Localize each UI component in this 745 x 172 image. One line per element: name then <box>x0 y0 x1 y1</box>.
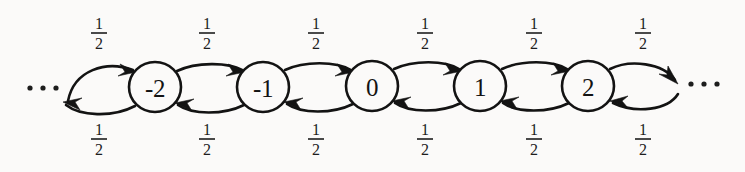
top-probability-label-3: 1 2 <box>308 15 324 52</box>
state-node-m2[interactable]: -2 <box>129 62 181 112</box>
right-ellipsis <box>688 81 719 86</box>
bottom-probability-label-6-denominator: 2 <box>639 141 647 158</box>
bottom-probability-labels: 1 2 1 2 1 2 1 2 1 2 <box>91 121 651 158</box>
top-probability-label-4-denominator: 2 <box>421 35 429 52</box>
bottom-probability-label-2-denominator: 2 <box>203 141 211 158</box>
edge-dots-to-m2-forward <box>68 66 133 101</box>
state-node-m1-label: -1 <box>253 75 273 102</box>
bottom-probability-label-4-numerator: 1 <box>421 121 429 138</box>
top-probability-labels: 1 2 1 2 1 2 1 2 1 2 <box>91 15 651 52</box>
bottom-probability-label-3: 1 2 <box>308 121 324 158</box>
top-probability-label-4: 1 2 <box>417 15 433 52</box>
bottom-probability-label-5-numerator: 1 <box>530 121 538 138</box>
left-ellipsis-dot-1 <box>27 85 32 90</box>
top-probability-label-6: 1 2 <box>635 15 651 52</box>
bottom-probability-label-5: 1 2 <box>526 121 542 158</box>
state-node-2-label: 2 <box>582 74 594 101</box>
bottom-probability-label-6: 1 2 <box>635 121 651 158</box>
right-ellipsis-dot-1 <box>688 81 693 86</box>
bottom-probability-label-6-numerator: 1 <box>639 121 647 138</box>
state-node-0-label: 0 <box>366 74 378 101</box>
top-probability-label-1-numerator: 1 <box>95 15 103 32</box>
left-ellipsis-dot-3 <box>53 85 58 90</box>
state-node-m1[interactable]: -1 <box>237 62 289 112</box>
bottom-probability-label-1: 1 2 <box>91 121 107 158</box>
state-node-2[interactable]: 2 <box>562 61 614 111</box>
diagram-canvas: -2 -1 0 1 2 <box>0 0 745 172</box>
top-probability-label-1-denominator: 2 <box>95 35 103 52</box>
markov-chain-diagram: -2 -1 0 1 2 <box>0 0 745 172</box>
top-probability-label-2-numerator: 1 <box>203 15 211 32</box>
top-probability-label-5-numerator: 1 <box>530 15 538 32</box>
top-probability-label-1: 1 2 <box>91 15 107 52</box>
bottom-probability-label-2: 1 2 <box>199 121 215 158</box>
top-probability-label-3-numerator: 1 <box>312 15 320 32</box>
top-probability-label-4-numerator: 1 <box>421 15 429 32</box>
state-node-0[interactable]: 0 <box>346 61 398 111</box>
bottom-probability-label-1-numerator: 1 <box>95 121 103 138</box>
left-ellipsis <box>27 85 58 90</box>
left-ellipsis-dot-2 <box>40 85 45 90</box>
bottom-probability-label-2-numerator: 1 <box>203 121 211 138</box>
state-node-1[interactable]: 1 <box>454 61 506 111</box>
bottom-probability-label-5-denominator: 2 <box>530 141 538 158</box>
top-probability-label-2-denominator: 2 <box>203 35 211 52</box>
bottom-probability-label-1-denominator: 2 <box>95 141 103 158</box>
top-probability-label-2: 1 2 <box>199 15 215 52</box>
right-ellipsis-dot-2 <box>701 81 706 86</box>
right-ellipsis-dot-3 <box>714 81 719 86</box>
top-probability-label-6-denominator: 2 <box>639 35 647 52</box>
bottom-probability-label-3-denominator: 2 <box>312 141 320 158</box>
bottom-probability-label-4: 1 2 <box>417 121 433 158</box>
top-probability-label-6-numerator: 1 <box>639 15 647 32</box>
top-probability-label-3-denominator: 2 <box>312 35 320 52</box>
state-node-1-label: 1 <box>474 74 486 101</box>
state-node-m2-label: -2 <box>145 75 165 102</box>
bottom-probability-label-3-numerator: 1 <box>312 121 320 138</box>
top-probability-label-5-denominator: 2 <box>530 35 538 52</box>
top-probability-label-5: 1 2 <box>526 15 542 52</box>
bottom-probability-label-4-denominator: 2 <box>421 141 429 158</box>
